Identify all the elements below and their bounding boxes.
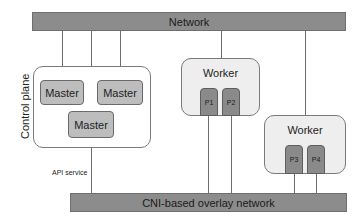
link-p1-overlay <box>208 116 209 193</box>
pod-p3: P3 <box>285 145 303 174</box>
pod-p4: P4 <box>307 145 325 174</box>
master-label: Master <box>74 119 108 131</box>
master-label: Master <box>45 87 79 99</box>
pod-label: P2 <box>227 99 236 106</box>
overlay-network-label: CNI-based overlay network <box>142 197 275 209</box>
worker-2-label: Worker <box>264 124 346 136</box>
network-bar: Network <box>32 12 346 31</box>
control-plane-label: Control plane <box>19 74 31 139</box>
pod-p1: P1 <box>200 88 218 116</box>
api-service-label: API service <box>52 169 87 176</box>
pod-label: P1 <box>205 99 214 106</box>
master-label: Master <box>103 87 137 99</box>
master-node-2: Master <box>97 80 143 105</box>
master-node-3: Master <box>68 111 114 138</box>
link-network-worker-2 <box>305 30 306 115</box>
overlay-network-bar: CNI-based overlay network <box>70 193 347 212</box>
master-node-1: Master <box>40 80 84 105</box>
link-p4-overlay <box>316 173 317 193</box>
pod-label: P4 <box>312 156 321 163</box>
pod-p2: P2 <box>222 88 240 116</box>
link-network-worker-1 <box>221 30 222 58</box>
network-label: Network <box>169 16 209 28</box>
pod-label: P3 <box>290 156 299 163</box>
link-p2-overlay <box>231 116 232 193</box>
link-p3-overlay <box>294 173 295 193</box>
worker-1-label: Worker <box>181 67 260 79</box>
